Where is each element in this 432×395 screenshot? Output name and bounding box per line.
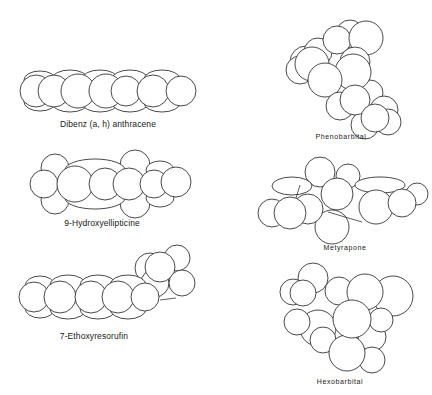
hexobarbital-model	[0, 0, 432, 395]
label-hexobarbital: Hexobarbital	[317, 378, 364, 385]
